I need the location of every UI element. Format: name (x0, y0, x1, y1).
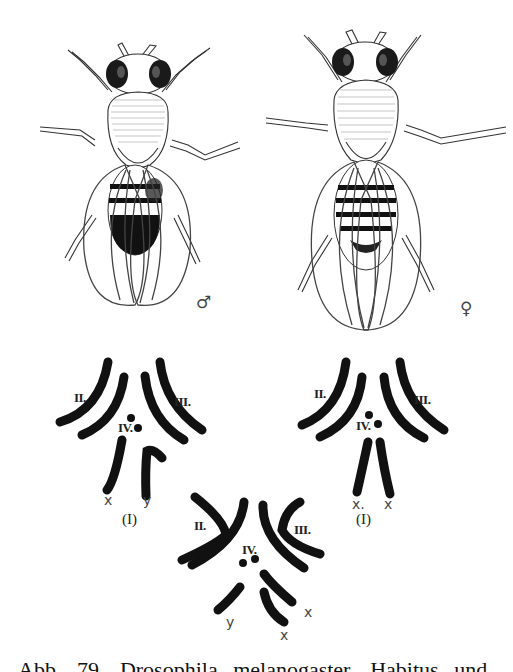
figure-caption: Abb. 79. Drosophila melanogaster. Habitu… (0, 658, 513, 672)
male-x-chromosome-label: x (104, 492, 112, 508)
male-chromosome-III-label: III. (174, 394, 190, 410)
xxy-y-chromosome-label: y (226, 614, 234, 630)
female-x1-chromosome-label: x. (352, 496, 365, 512)
female-chromosome-III-label: III. (414, 392, 430, 408)
male-fly-illustration (0, 0, 256, 340)
female-symbol: ♀ (460, 298, 472, 318)
female-chromosome-IV-label: IV. (356, 418, 371, 434)
male-y-chromosome-label: y (143, 492, 151, 508)
female-fly-illustration (256, 0, 513, 345)
female-x2-chromosome-label: x (384, 496, 392, 512)
female-group-label: (I) (356, 511, 371, 528)
male-chromosome-II-label: II. (74, 390, 86, 406)
figure-caption-text: Abb. 79. Drosophila melanogaster. Habitu… (0, 658, 513, 672)
xxy-x1-chromosome-label: x (304, 604, 312, 620)
xxy-x2-chromosome-label: x (280, 627, 288, 643)
female-chromosome-II-label: II. (314, 386, 326, 402)
xxy-chromosome-II-label: II. (194, 518, 206, 534)
male-chromosome-IV-label: IV. (118, 420, 133, 436)
xxy-chromosome-III-label: III. (294, 522, 310, 538)
male-group-label: (I) (122, 511, 137, 528)
male-symbol: ♂ (196, 292, 211, 312)
xxy-chromosome-IV-label: IV. (242, 542, 257, 558)
